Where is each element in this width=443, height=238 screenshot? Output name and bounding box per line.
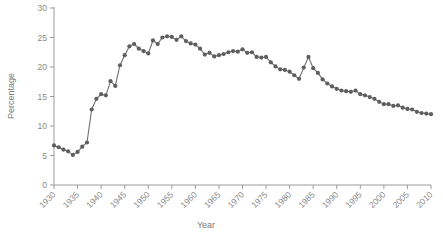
y-tick-label: 30 [38,3,48,13]
x-tick-label: 1975 [249,189,270,210]
data-point [259,55,263,59]
data-point [198,47,202,51]
data-point [264,55,268,59]
data-point [368,95,372,99]
x-tick-label: 2010 [414,189,435,210]
y-tick-label: 10 [38,121,48,131]
x-tick-label: 2005 [391,189,412,210]
data-point [189,41,193,45]
x-tick-label: 1965 [202,189,223,210]
data-point [85,140,89,144]
data-point [203,53,207,57]
data-point [245,51,249,55]
data-point [358,92,362,96]
data-point [344,89,348,93]
y-tick-label: 0 [42,180,47,190]
data-point [151,38,155,42]
data-point [288,70,292,74]
data-point [226,50,230,54]
data-point [240,47,244,51]
data-point [316,71,320,75]
data-point [349,90,353,94]
data-point [269,60,273,64]
data-point [410,107,414,111]
data-point [363,93,367,97]
data-point [118,63,122,67]
y-axis-title: Percentage [6,73,16,119]
data-point [146,51,150,55]
data-point [94,97,98,101]
data-point [278,67,282,71]
x-tick-label: 1980 [273,189,294,210]
data-point [250,50,254,54]
data-point [283,68,287,72]
data-point [306,55,310,59]
chart-container: 0510152025301930193519401945195019551960… [0,0,443,238]
data-point [401,106,405,110]
data-point [174,38,178,42]
data-point [156,42,160,46]
data-point [424,112,428,116]
data-point [325,81,329,85]
x-tick-label: 1945 [108,189,129,210]
data-point [137,47,141,51]
data-point [297,77,301,81]
data-point [222,52,226,56]
data-point [429,112,433,116]
data-point [231,49,235,53]
data-point [321,77,325,81]
y-tick-label: 5 [42,151,47,161]
data-point [335,87,339,91]
data-point [141,49,145,53]
data-point [113,84,117,88]
data-point [127,44,131,48]
data-point [99,92,103,96]
data-point [391,104,395,108]
x-tick-label: 1970 [226,189,247,210]
x-tick-label: 1950 [131,189,152,210]
y-tick-label: 25 [38,33,48,43]
data-point [354,89,358,93]
data-point [160,35,164,39]
data-point [75,150,79,154]
data-point [71,153,75,157]
x-tick-label: 1985 [296,189,317,210]
x-tick-label: 2000 [367,189,388,210]
data-point [184,39,188,43]
data-point [405,107,409,111]
x-tick-label: 1960 [178,189,199,210]
x-axis-title: Year [197,220,215,230]
data-point [377,100,381,104]
x-tick-label: 1935 [61,189,82,210]
data-point [311,66,315,70]
data-point [179,34,183,38]
data-point [217,53,221,57]
data-point [108,79,112,83]
data-point [419,111,423,115]
line-chart-plot: 0510152025301930193519401945195019551960… [0,0,443,238]
data-point [372,97,376,101]
data-point [104,93,108,97]
data-point [396,103,400,107]
series-line-path [54,36,431,155]
data-point [415,110,419,114]
data-point [66,149,70,153]
x-tick-label: 1990 [320,189,341,210]
data-point [90,107,94,111]
data-point [339,89,343,93]
data-point [165,34,169,38]
data-point [236,50,240,54]
data-point [212,54,216,58]
data-point [170,35,174,39]
x-tick-label: 1940 [84,189,105,210]
data-point [273,64,277,68]
data-point [330,84,334,88]
data-point [292,73,296,77]
data-point [302,65,306,69]
data-point [123,53,127,57]
data-point [80,145,84,149]
data-point [132,42,136,46]
data-point [207,51,211,55]
data-point [61,148,65,152]
y-tick-label: 20 [38,62,48,72]
